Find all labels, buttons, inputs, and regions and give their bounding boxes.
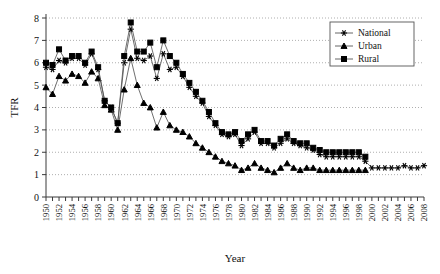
marker-triangle: [252, 160, 258, 165]
marker-square: [342, 57, 347, 62]
marker-square: [317, 148, 322, 153]
marker-triangle: [89, 69, 95, 74]
marker-square: [83, 60, 88, 65]
x-tick-label: 1962: [120, 204, 130, 221]
marker-square: [304, 141, 309, 146]
marker-square: [57, 47, 62, 52]
y-tick-label: 4: [34, 102, 39, 113]
marker-square: [259, 139, 264, 144]
marker-triangle: [128, 55, 134, 60]
marker-square: [363, 154, 368, 159]
x-tick-label: 1976: [211, 203, 221, 221]
marker-square: [265, 139, 270, 144]
marker-square: [89, 49, 94, 54]
x-tick-label: 1980: [237, 204, 247, 221]
x-tick-label: 1978: [224, 204, 234, 221]
x-tick-label: 1998: [354, 204, 364, 221]
marker-triangle: [154, 125, 160, 130]
x-tick-label: 1952: [54, 204, 64, 221]
y-tick-label: 5: [34, 80, 39, 91]
chart-figure: 012345678TFR1950195219541956195819601962…: [0, 0, 440, 274]
x-tick-label: 1958: [93, 204, 103, 221]
marker-triangle: [199, 145, 205, 150]
marker-square: [213, 121, 218, 126]
marker-square: [200, 98, 205, 103]
marker-square: [285, 132, 290, 137]
marker-square: [115, 121, 120, 126]
legend-label-urban: Urban: [358, 41, 382, 51]
marker-triangle: [219, 158, 225, 163]
marker-square: [122, 54, 127, 59]
marker-square: [252, 127, 257, 132]
marker-square: [50, 62, 55, 67]
marker-triangle: [186, 134, 192, 139]
x-tick-label: 2000: [367, 204, 377, 221]
x-tick-label: 1966: [146, 203, 156, 221]
y-tick-label: 8: [34, 13, 39, 24]
marker-square: [70, 54, 75, 59]
y-tick-label: 6: [34, 57, 39, 68]
marker-square: [226, 132, 231, 137]
marker-square: [63, 58, 68, 63]
marker-square: [298, 141, 303, 146]
marker-triangle: [121, 87, 127, 92]
marker-square: [128, 20, 133, 25]
x-axis-title: Year: [225, 252, 246, 264]
x-tick-label: 1956: [80, 203, 90, 221]
marker-triangle: [160, 109, 166, 114]
marker-square: [239, 139, 244, 144]
x-tick-label: 1984: [263, 203, 273, 221]
x-tick-label: 1982: [250, 204, 260, 221]
series-rural: [44, 20, 368, 159]
marker-triangle: [69, 71, 75, 76]
x-tick-label: 2004: [393, 203, 403, 221]
x-tick-label: 1986: [276, 203, 286, 221]
marker-square: [135, 49, 140, 54]
series-urban: [43, 55, 368, 175]
x-tick-label: 1992: [315, 204, 325, 221]
marker-triangle: [167, 122, 173, 127]
marker-square: [174, 60, 179, 65]
x-tick-label: 1960: [106, 204, 116, 221]
y-tick-label: 3: [34, 124, 39, 135]
x-tick-label: 1974: [198, 203, 208, 221]
legend-label-rural: Rural: [358, 54, 379, 64]
series-line: [46, 58, 365, 172]
y-tick-label: 2: [34, 147, 39, 158]
x-tick-label: 2002: [380, 204, 390, 221]
y-tick-label: 0: [34, 192, 39, 203]
y-axis-title: TFR: [8, 97, 20, 118]
x-tick-label: 2006: [406, 203, 416, 221]
marker-square: [187, 80, 192, 85]
marker-triangle: [258, 165, 264, 170]
legend-label-national: National: [358, 28, 391, 38]
marker-square: [96, 65, 101, 70]
marker-triangle: [212, 154, 218, 159]
marker-square: [141, 49, 146, 54]
x-tick-label: 1988: [289, 204, 299, 221]
marker-square: [233, 130, 238, 135]
marker-square: [148, 40, 153, 45]
y-tick-label: 1: [34, 169, 39, 180]
x-tick-label: 1970: [172, 204, 182, 221]
marker-square: [350, 150, 355, 155]
marker-square: [193, 89, 198, 94]
x-tick-label: 1996: [341, 203, 351, 221]
marker-square: [246, 132, 251, 137]
marker-square: [324, 150, 329, 155]
marker-square: [161, 38, 166, 43]
legend: NationalUrbanRural: [330, 22, 414, 66]
marker-triangle: [141, 100, 147, 105]
marker-square: [219, 130, 224, 135]
x-tick-label: 1994: [328, 203, 338, 221]
x-tick-label: 1950: [41, 204, 51, 221]
marker-square: [76, 54, 81, 59]
marker-square: [102, 98, 107, 103]
marker-triangle: [284, 160, 290, 165]
x-tick-label: 1972: [185, 204, 195, 221]
x-tick-label: 1964: [133, 203, 143, 221]
tfr-line-chart: 012345678TFR1950195219541956195819601962…: [0, 0, 440, 274]
marker-triangle: [278, 165, 284, 170]
x-tick-label: 1954: [67, 203, 77, 221]
marker-square: [311, 145, 316, 150]
